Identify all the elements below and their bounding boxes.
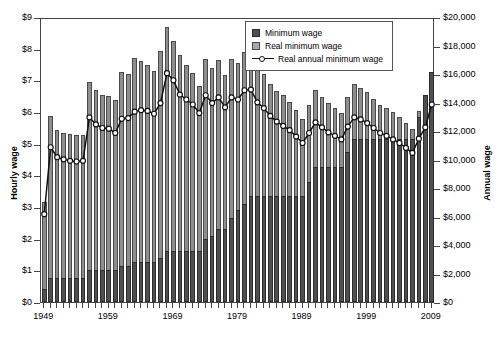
chart-legend: Minimum wage Real minimum wage Real annu… [245,21,393,71]
x-axis-tick-mark [353,303,354,308]
y-axis-right-tick-label: $2,000 [443,269,471,279]
y-axis-left-tick-label: $3 [0,202,32,212]
real-annual-wage-marker [378,131,383,136]
x-axis-tick-mark [405,303,406,308]
real-annual-wage-marker [145,108,150,113]
x-axis-tick-mark [327,303,328,308]
x-axis-tick-mark [373,303,374,308]
y-axis-left-tick-mark [34,50,40,51]
x-axis-tick-mark [250,303,251,308]
x-axis-tick-label: 1999 [353,311,379,321]
y-axis-right-tick-mark [434,246,440,247]
real-annual-wage-marker [55,155,60,160]
y-axis-left-tick-label: $9 [0,12,32,22]
x-axis-tick-mark [276,303,277,308]
x-axis-tick-mark [289,303,290,308]
real-annual-wage-marker [210,101,215,106]
x-axis-tick-mark [198,303,199,308]
real-annual-wage-marker [281,123,286,128]
x-axis-tick-mark [237,303,238,308]
real-annual-wage-marker [307,131,312,136]
real-annual-wage-marker [68,158,73,163]
x-axis-tick-mark [185,303,186,308]
legend-item-real-annual-minimum-wage: Real annual minimum wage [252,52,386,65]
real-annual-wage-marker [391,137,396,142]
y-axis-left-tick-mark [34,240,40,241]
y-axis-left-tick-label: $7 [0,75,32,85]
real-annual-wage-marker [177,92,182,97]
y-axis-right-title: Annual wage [482,133,492,213]
real-annual-wage-marker [332,133,337,138]
y-axis-right-tick-mark [434,18,440,19]
real-annual-wage-marker [158,101,163,106]
x-axis-tick-mark [295,303,296,308]
legend-swatch-real-annual-minimum-wage [252,55,274,63]
real-annual-wage-marker [319,125,324,130]
real-annual-wage-marker [132,109,137,114]
x-axis-tick-mark [153,303,154,308]
x-axis-tick-label: 1949 [30,311,56,321]
real-annual-wage-marker [126,116,131,121]
real-annual-wage-marker [294,134,299,139]
y-axis-right-tick-label: $18,000 [443,41,476,51]
x-axis-tick-mark [211,303,212,308]
real-annual-wage-marker [171,78,176,83]
x-axis-tick-mark [147,303,148,308]
x-axis-tick-mark [411,303,412,308]
legend-label-minimum-wage: Minimum wage [265,28,322,38]
x-axis-tick-mark [166,303,167,308]
x-axis-tick-mark [431,303,432,308]
x-axis-tick-mark [366,303,367,308]
x-axis-tick-mark [114,303,115,308]
x-axis-tick-mark [134,303,135,308]
y-axis-left-tick-mark [34,18,40,19]
x-axis-tick-label: 1989 [289,311,315,321]
x-axis-tick-mark [347,303,348,308]
y-axis-left-tick-mark [34,208,40,209]
x-axis-tick-mark [243,303,244,308]
y-axis-right-tick-mark [434,104,440,105]
y-axis-left-tick-mark [34,271,40,272]
y-axis-right-tick-mark [434,75,440,76]
real-annual-wage-marker [93,122,98,127]
x-axis-tick-mark [360,303,361,308]
legend-item-minimum-wage: Minimum wage [252,26,386,39]
x-axis-tick-mark [418,303,419,308]
real-annual-wage-marker [74,159,79,164]
x-axis-tick-label: 2009 [418,311,444,321]
x-axis-tick-mark [308,303,309,308]
real-annual-wage-marker [229,95,234,100]
legend-label-real-minimum-wage: Real minimum wage [265,41,342,51]
real-annual-wage-marker [397,140,402,145]
y-axis-left-tick-mark [34,303,40,304]
x-axis-tick-mark [256,303,257,308]
real-annual-wage-marker [197,111,202,116]
real-annual-wage-marker [300,140,305,145]
real-annual-wage-marker [352,115,357,120]
real-annual-wage-marker [184,97,189,102]
chart-root: Hourly wage Annual wage Minimum wage Rea… [0,0,498,337]
real-annual-wage-marker [403,145,408,150]
x-axis-tick-label: 1979 [224,311,250,321]
y-axis-right-tick-label: $4,000 [443,240,471,250]
y-axis-left-tick-label: $6 [0,107,32,117]
x-axis-tick-mark [108,303,109,308]
y-axis-right-tick-label: $6,000 [443,212,471,222]
real-annual-wage-marker [164,71,169,76]
y-axis-left-tick-label: $0 [0,297,32,307]
y-axis-right-tick-mark [434,218,440,219]
y-axis-right-tick-mark [434,303,440,304]
x-axis-tick-mark [121,303,122,308]
y-axis-right-tick-label: $0 [443,297,453,307]
real-annual-wage-marker [410,150,415,155]
x-axis-tick-mark [424,303,425,308]
x-axis-tick-mark [69,303,70,308]
real-annual-wage-marker [326,130,331,135]
x-axis-tick-mark [334,303,335,308]
y-axis-left-tick-label: $2 [0,234,32,244]
real-annual-wage-marker [152,111,157,116]
y-axis-left-tick-label: $1 [0,265,32,275]
x-axis-tick-mark [179,303,180,308]
real-annual-wage-marker [365,121,370,126]
y-axis-left-tick-label: $5 [0,139,32,149]
